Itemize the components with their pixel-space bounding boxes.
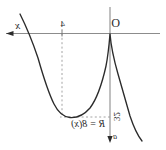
x-tick-4-label: 4 (61, 20, 66, 29)
minimum-value-label: R = 8(x) (71, 119, 105, 129)
x-axis-label: x (15, 20, 20, 31)
origin-label: O (111, 17, 120, 29)
y-value-32-label: 32 (112, 112, 121, 121)
y-axis-arrowhead-icon (107, 136, 112, 143)
figure-canvas: x O 4 R = 8(x) 32 a (0, 0, 166, 150)
mirrored-figure-layer: x O 4 R = 8(x) 32 a (0, 0, 166, 150)
y-axis-label: a (113, 133, 117, 141)
x-axis-arrowhead-icon (6, 31, 14, 36)
